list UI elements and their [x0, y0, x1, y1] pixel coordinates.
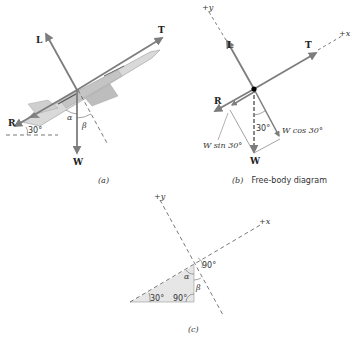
figure-a: L T R W 30° α β (a)	[6, 25, 165, 185]
x-axis-line	[318, 36, 342, 50]
thrust-arrow	[254, 53, 316, 89]
label-angle-90-bottom: 90°	[173, 294, 187, 303]
physics-figure: L T R W 30° α β (a) +y +x L T R W 30° W …	[0, 0, 354, 342]
label-alpha: α	[184, 272, 190, 281]
caption-b: (b) Free-body diagram	[232, 168, 327, 187]
label-lift: L	[36, 35, 43, 45]
label-plus-x: +x	[339, 29, 351, 38]
center-of-mass-dot	[251, 86, 256, 91]
lift-arrow	[46, 34, 77, 90]
caption-b-prefix: (b)	[232, 176, 243, 185]
label-angle-30: 30°	[28, 126, 42, 135]
cos-component-guide	[254, 139, 280, 153]
label-lift: L	[227, 40, 234, 50]
figure-b: +y +x L T R W 30° W cos 30° W sin 30° (b…	[202, 3, 351, 187]
label-drag: R	[8, 118, 16, 128]
caption-b-text: Free-body diagram	[251, 176, 327, 185]
sin-label-leader	[218, 113, 228, 140]
label-plus-y: +y	[202, 3, 214, 12]
label-beta: β	[81, 121, 87, 130]
label-weight: W	[249, 156, 261, 166]
label-angle-30: 30°	[150, 294, 164, 303]
label-w-cos-30: W cos 30°	[282, 126, 323, 135]
figure-c: +y +x 30° 90° 90° α β (c)	[130, 192, 271, 334]
label-alpha: α	[67, 113, 73, 122]
label-angle-30: 30°	[256, 124, 270, 133]
label-drag: R	[214, 96, 222, 106]
airplane-icon	[22, 50, 160, 126]
label-weight: W	[72, 157, 84, 167]
label-w-sin-30: W sin 30°	[203, 141, 242, 150]
y-axis-line	[209, 12, 226, 40]
label-plus-x: +x	[259, 217, 271, 226]
label-beta: β	[195, 283, 201, 292]
label-angle-90-top: 90°	[202, 261, 216, 270]
thrust-arrow	[77, 38, 162, 90]
caption-c: (c)	[188, 325, 199, 334]
label-thrust: T	[158, 25, 165, 35]
label-plus-y: +y	[154, 192, 166, 201]
caption-a: (a)	[98, 176, 109, 185]
w-sin-component-arrow	[232, 92, 254, 105]
label-thrust: T	[305, 40, 312, 50]
